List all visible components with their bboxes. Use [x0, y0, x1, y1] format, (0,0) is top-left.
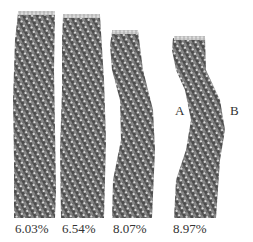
- strain-label-4: 8.97%: [173, 222, 207, 235]
- strain-label-2: 6.54%: [62, 222, 96, 235]
- strain-label-3: 8.07%: [113, 222, 147, 235]
- nanowire-figure: [0, 0, 253, 242]
- nanowire-8-07: [110, 30, 155, 218]
- strain-label-1: 6.03%: [15, 222, 49, 235]
- nanowire-6-03: [13, 11, 56, 218]
- nanowire-6-54: [60, 14, 106, 218]
- point-a-label: A: [175, 104, 184, 117]
- point-b-label: B: [230, 104, 239, 117]
- nanowire-8-97: [172, 36, 225, 218]
